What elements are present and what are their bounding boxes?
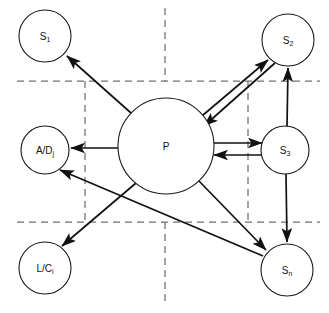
node-s3-circle[interactable]: [261, 126, 309, 174]
edge-s3-to-sn: [286, 174, 287, 242]
node-s2-circle[interactable]: [262, 14, 314, 66]
edge-p-to-s2: [196, 60, 268, 121]
node-s2[interactable]: S2: [262, 14, 314, 66]
node-s1[interactable]: S1: [19, 10, 71, 62]
node-lc-i[interactable]: L/Ci: [19, 242, 71, 294]
node-s1-circle[interactable]: [19, 10, 71, 62]
edge-p-to-lci: [62, 183, 136, 246]
node-ad-j[interactable]: A/Dj: [21, 126, 69, 174]
node-sn-circle[interactable]: [261, 244, 313, 296]
diagram-canvas: S1 S2 P A/Dj: [0, 0, 329, 313]
edge-s3-to-s2: [287, 68, 288, 126]
diagram-svg: S1 S2 P A/Dj: [0, 0, 329, 313]
edge-s2-to-p: [204, 63, 275, 126]
node-lc-i-circle[interactable]: [19, 242, 71, 294]
node-s3[interactable]: S3: [261, 126, 309, 174]
node-layer: S1 S2 P A/Dj: [19, 10, 314, 296]
edge-p-to-s1: [67, 56, 131, 113]
node-sn[interactable]: Sn: [261, 244, 313, 296]
node-p[interactable]: P: [118, 98, 214, 194]
edge-p-to-sn: [198, 180, 266, 250]
node-ad-j-circle[interactable]: [21, 126, 69, 174]
node-p-circle[interactable]: [118, 98, 214, 194]
